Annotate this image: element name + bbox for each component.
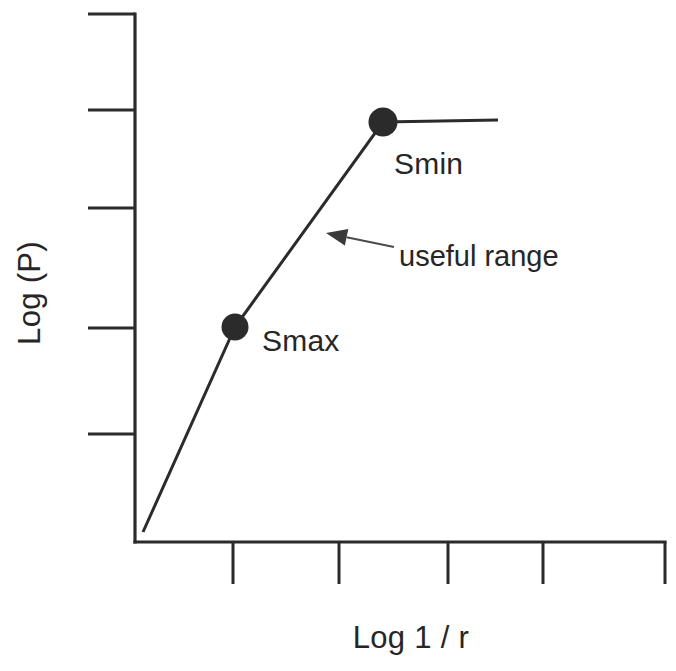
data-point-smin-label: Smin xyxy=(394,147,463,180)
plot-canvas: Log (P) Log 1 / r Smax Smin xyxy=(0,0,676,671)
useful-range-arrow-icon xyxy=(326,229,348,246)
useful-range-label: useful range xyxy=(399,240,559,272)
chart-figure: Log (P) Log 1 / r Smax Smin xyxy=(0,0,676,671)
data-point-smax-marker xyxy=(222,314,249,341)
y-axis-ticks xyxy=(88,14,135,434)
useful-range-annotation-group: useful range xyxy=(326,229,559,272)
y-axis-group: Log (P) xyxy=(12,14,135,542)
x-axis-ticks xyxy=(233,542,665,584)
y-axis-label: Log (P) xyxy=(12,241,47,345)
x-axis-group: Log 1 / r xyxy=(135,542,665,655)
x-axis-label: Log 1 / r xyxy=(353,620,469,655)
data-point-smin-marker xyxy=(369,108,398,137)
data-point-smax-label: Smax xyxy=(262,324,340,357)
useful-range-leader-line xyxy=(347,237,394,247)
